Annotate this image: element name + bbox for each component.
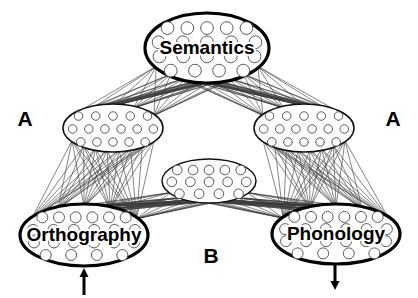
node-hidden-middle <box>162 159 256 203</box>
network-nodes: SemanticsSemanticsOrthographyOrthography… <box>20 13 400 266</box>
unit-circle <box>356 211 367 222</box>
unit-circle <box>141 138 150 147</box>
unit-circle <box>117 125 126 134</box>
unit-circle <box>369 248 380 259</box>
unit-circle <box>241 177 251 187</box>
unit-circle <box>91 250 102 261</box>
unit-circle <box>289 211 300 222</box>
unit-circle <box>276 125 285 134</box>
unit-circle <box>220 165 230 175</box>
unit-circle <box>308 125 317 134</box>
unit-circle <box>316 138 325 147</box>
unit-circle <box>161 22 174 35</box>
unit-circle <box>236 165 246 175</box>
node-orthography: OrthographyOrthography <box>20 204 148 266</box>
unit-circle <box>54 212 65 223</box>
unit-circle <box>87 212 98 223</box>
unit-circle <box>77 138 86 147</box>
unit-circle <box>306 211 317 222</box>
unit-circle <box>109 112 118 121</box>
orthography-input-arrow <box>80 268 89 295</box>
unit-circle <box>85 125 94 134</box>
node-hidden-left <box>63 104 163 152</box>
unit-circle <box>240 22 253 35</box>
unit-circle <box>214 189 224 199</box>
unit-circle <box>265 112 274 121</box>
unit-circle <box>292 248 303 259</box>
diagram-canvas: SemanticsSemanticsOrthographyOrthography… <box>0 0 418 298</box>
unit-circle <box>126 112 135 121</box>
arrow-head <box>331 281 340 290</box>
unit-circle <box>125 138 134 147</box>
unit-circle <box>188 165 198 175</box>
unit-circle <box>237 64 250 77</box>
unit-circle <box>109 138 118 147</box>
unit-circle <box>70 212 81 223</box>
node-label-orthography: Orthography <box>26 224 141 245</box>
unit-circle <box>259 125 268 134</box>
unit-circle <box>194 189 204 199</box>
unit-circle <box>324 125 333 134</box>
unit-circle <box>339 211 350 222</box>
unit-circle <box>204 165 214 175</box>
unit-circle <box>284 138 293 147</box>
unit-circle <box>282 112 291 121</box>
unit-circle <box>149 125 158 134</box>
unit-circle <box>117 250 128 261</box>
unit-circle <box>213 64 226 77</box>
pathway-a-right: A <box>385 107 400 130</box>
unit-circle <box>334 112 343 121</box>
unit-circle <box>37 212 48 223</box>
unit-circle <box>317 112 326 121</box>
unit-circle <box>220 22 233 35</box>
unit-circle <box>223 177 233 187</box>
unit-circle <box>91 112 100 121</box>
unit-circle <box>104 212 115 223</box>
node-label-semantics: Semantics <box>159 37 254 58</box>
unit-circle <box>167 177 177 187</box>
unit-circle <box>292 125 301 134</box>
unit-circle <box>322 211 333 222</box>
unit-circle <box>234 189 244 199</box>
unit-circle <box>164 64 177 77</box>
unit-circle <box>74 112 83 121</box>
pathway-a-left: A <box>17 107 32 130</box>
unit-circle <box>68 125 77 134</box>
unit-circle <box>300 138 309 147</box>
node-phonology: PhonologyPhonology <box>272 204 400 264</box>
unit-circle <box>93 138 102 147</box>
unit-circle <box>201 22 214 35</box>
phonology-output-arrow <box>331 263 340 290</box>
unit-circle <box>204 177 214 187</box>
unit-circle <box>343 248 354 259</box>
unit-circle <box>340 125 349 134</box>
unit-circle <box>133 125 142 134</box>
io-arrows <box>80 263 340 295</box>
unit-circle <box>120 212 131 223</box>
unit-circle <box>332 138 341 147</box>
unit-circle <box>66 250 77 261</box>
unit-circle <box>189 64 202 77</box>
unit-circle <box>40 250 51 261</box>
unit-circle <box>181 22 194 35</box>
unit-circle <box>318 248 329 259</box>
node-hidden-right <box>254 104 354 152</box>
unit-circle <box>186 177 196 187</box>
node-semantics: SemanticsSemantics <box>145 13 269 83</box>
unit-circle <box>268 138 277 147</box>
arrow-head <box>80 268 89 277</box>
unit-circle <box>372 211 383 222</box>
node-label-phonology: Phonology <box>287 223 386 244</box>
pathway-b: B <box>203 244 218 267</box>
unit-circle <box>172 165 182 175</box>
triangle-model-diagram: SemanticsSemanticsOrthographyOrthography… <box>0 0 418 298</box>
unit-circle <box>101 125 110 134</box>
unit-circle <box>175 189 185 199</box>
unit-circle <box>300 112 309 121</box>
unit-circle <box>143 112 152 121</box>
